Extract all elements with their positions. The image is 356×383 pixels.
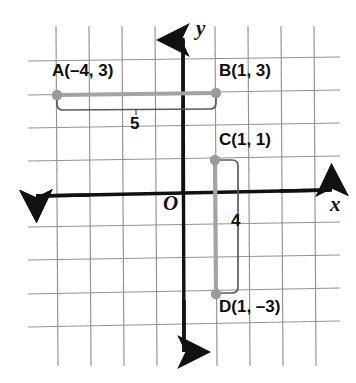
y-axis: [183, 38, 184, 352]
point-a-dot: [52, 90, 62, 100]
measure-label-cd: 4: [231, 211, 240, 231]
measure-label-ab: 5: [130, 114, 139, 134]
grid-line-vertical: [155, 26, 157, 366]
point-label-d: D(1, –3): [219, 297, 280, 317]
point-label-a: A(–4, 3): [52, 61, 113, 81]
segment-cd: [215, 160, 216, 294]
point-label-c: C(1, 1): [219, 130, 271, 150]
origin-label: O: [163, 191, 178, 216]
grid-line-vertical: [122, 26, 124, 366]
measure-bracket-ab: [57, 97, 216, 110]
point-b-dot: [211, 88, 221, 98]
x-axis-label: x: [330, 192, 341, 217]
x-axis-arrow-left: [36, 195, 90, 196]
segment-ab: [57, 93, 216, 95]
x-axis-arrow-right: [280, 190, 332, 191]
y-axis-label: y: [196, 16, 205, 41]
coordinate-plane-figure: y x O A(–4, 3) B(1, 3) C(1, 1) D(1, –3) …: [0, 0, 356, 383]
grid-line-vertical: [314, 26, 316, 366]
point-c-dot: [210, 155, 220, 165]
grid-line-vertical: [281, 26, 283, 366]
point-label-b: B(1, 3): [219, 61, 271, 81]
